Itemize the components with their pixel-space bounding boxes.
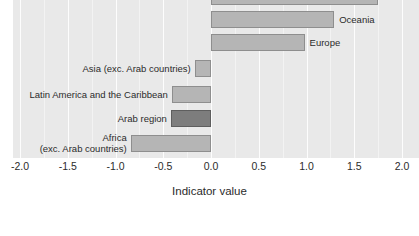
x-tick-label: 2.0	[382, 160, 419, 172]
bar-label: Asia (exc. Arab countries)	[83, 63, 191, 74]
bar-label-line1: Europe	[310, 37, 341, 48]
gridline-major	[20, 0, 21, 158]
bar	[131, 135, 211, 152]
x-tick-label: -2.0	[0, 160, 40, 172]
bar	[211, 34, 305, 51]
bar-label-line1: Arab region	[118, 113, 167, 124]
bar-label: Europe	[310, 37, 341, 48]
x-tick-label: -1.5	[48, 160, 88, 172]
x-tick-label: 1.5	[334, 160, 374, 172]
bar-label-line2: (exc. Arab countries)	[40, 143, 127, 154]
x-tick-label: -0.5	[143, 160, 183, 172]
bar-label: Oceania	[339, 14, 374, 25]
bar	[211, 11, 334, 28]
bar-label-line1: Latin America and the Caribbean	[29, 89, 167, 100]
bar-label-line1: Asia (exc. Arab countries)	[83, 63, 191, 74]
gridline-major	[402, 0, 403, 158]
bar	[211, 0, 378, 5]
bar-label: Africa(exc. Arab countries)	[40, 132, 127, 154]
gridline-minor	[378, 0, 379, 158]
x-tick-label: -1.0	[96, 160, 136, 172]
bar-label: Arab region	[118, 113, 167, 124]
x-axis-title: Indicator value	[0, 185, 419, 197]
bar-label: Latin America and the Caribbean	[29, 89, 167, 100]
x-tick-label: 0.5	[239, 160, 279, 172]
bar-label-line1: Oceania	[339, 14, 374, 25]
bar-chart: Indicator value OceaniaEuropeAsia (exc. …	[0, 0, 419, 236]
bar	[195, 60, 211, 77]
bar	[172, 86, 211, 103]
bar-label-line1: Africa	[102, 132, 126, 143]
bar	[171, 110, 211, 127]
x-tick-label: 0.0	[191, 160, 231, 172]
x-tick-label: 1.0	[287, 160, 327, 172]
